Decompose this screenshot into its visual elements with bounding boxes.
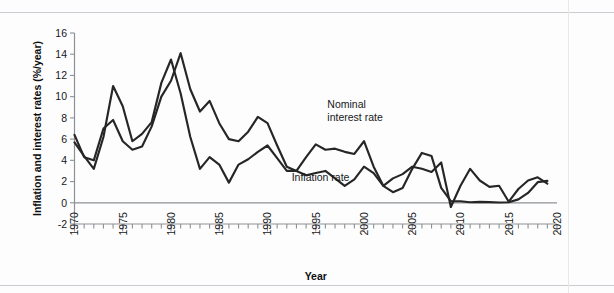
- chart-figure: -20246810121416 197019751980198519901995…: [0, 0, 614, 293]
- y-axis-tick-label: 10: [55, 90, 67, 102]
- x-axis-tick-label: 1990: [261, 212, 273, 236]
- y-axis-tick-label: 6: [61, 133, 67, 145]
- x-axis-tick-label: 2000: [358, 212, 370, 236]
- x-axis-tick-label: 1970: [68, 212, 80, 236]
- y-axis-tick-label: 12: [55, 69, 67, 81]
- nominal-interest-rate-label-line2: interest rate: [327, 111, 383, 123]
- y-axis-tick-label: 14: [55, 48, 67, 60]
- nominal-interest-rate-label: Nominal: [327, 98, 366, 110]
- x-axis-tick-label: 2015: [503, 212, 515, 236]
- x-axis-title: Year: [305, 270, 327, 282]
- y-axis-tick-label: 2: [61, 175, 67, 187]
- y-axis-tick-label: -2: [58, 218, 67, 230]
- series-group: [75, 53, 548, 207]
- y-axis-tick-label: 4: [61, 154, 67, 166]
- inflation-rate-label: Inflation rate: [292, 171, 350, 183]
- y-axis-tick-label: 16: [55, 27, 67, 39]
- x-axis-tick-label: 1995: [310, 212, 322, 236]
- line-chart: -20246810121416 197019751980198519901995…: [0, 0, 614, 293]
- y-axis-tick-label: 0: [61, 197, 67, 209]
- x-axis-tick-label: 2020: [551, 212, 563, 236]
- x-axis-tick-label: 2005: [406, 212, 418, 236]
- x-axis-tick-label: 1980: [165, 212, 177, 236]
- series-line-inflation-rate: [75, 60, 548, 207]
- y-axis-title: Inflation and interest rates (%/year): [31, 41, 43, 216]
- x-axis: 1970197519801985199019952000200520102015…: [68, 212, 563, 236]
- x-axis-tick-label: 1975: [117, 212, 129, 236]
- y-axis-tick-label: 8: [61, 112, 67, 124]
- axis-titles-group: Inflation and interest rates (%/year)Yea…: [31, 41, 327, 282]
- x-axis-tick-label: 2010: [454, 212, 466, 236]
- x-axis-tick-label: 1985: [213, 212, 225, 236]
- y-axis: -20246810121416: [55, 27, 74, 230]
